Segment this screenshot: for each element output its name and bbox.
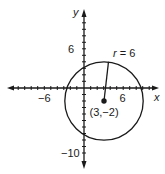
- x-tick-label-6: 6: [120, 92, 126, 104]
- y-axis-down-arrow-icon: [82, 161, 87, 169]
- y-axis-label: y: [72, 6, 80, 18]
- center-point: [101, 98, 106, 103]
- x-axis-label: x: [153, 91, 160, 103]
- x-tick-label-neg6: −6: [38, 92, 51, 104]
- radius-line: [104, 62, 109, 101]
- y-tick-label-6: 6: [68, 43, 74, 55]
- y-axis-up-arrow-icon: [82, 9, 87, 17]
- center-label: (3,−2): [90, 106, 119, 118]
- x-axis-left-arrow-icon: [7, 86, 14, 91]
- coordinate-diagram: x −6 6 y: [0, 0, 165, 174]
- radius-label: r = 6: [113, 47, 135, 59]
- x-axis-right-arrow-icon: [152, 86, 159, 91]
- y-tick-label-neg10: −10: [61, 147, 80, 159]
